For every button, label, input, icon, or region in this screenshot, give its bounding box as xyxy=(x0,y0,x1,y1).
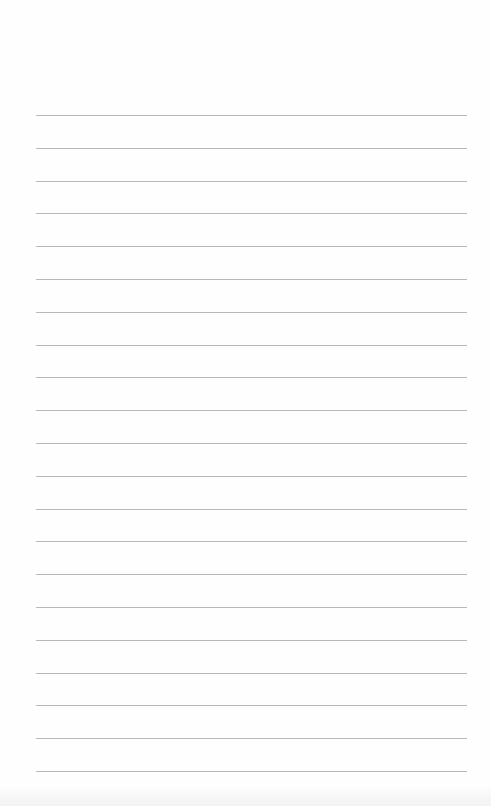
ruled-line xyxy=(36,574,467,575)
scan-noise-strip xyxy=(0,784,491,806)
ruled-line xyxy=(36,181,467,182)
ruled-line xyxy=(36,312,467,313)
ruled-line xyxy=(36,443,467,444)
ruled-line xyxy=(36,279,467,280)
ruled-line xyxy=(36,246,467,247)
ruled-line xyxy=(36,476,467,477)
ruled-line xyxy=(36,509,467,510)
ruled-line xyxy=(36,115,467,116)
ruled-line xyxy=(36,738,467,739)
ruled-line xyxy=(36,345,467,346)
ruled-line xyxy=(36,541,467,542)
ruled-line xyxy=(36,213,467,214)
ruled-line xyxy=(36,377,467,378)
ruled-line xyxy=(36,771,467,772)
ruled-line xyxy=(36,148,467,149)
ruled-line xyxy=(36,705,467,706)
ruled-line xyxy=(36,410,467,411)
ruled-line xyxy=(36,607,467,608)
lined-paper-page xyxy=(0,0,491,806)
ruled-line xyxy=(36,673,467,674)
ruled-line xyxy=(36,640,467,641)
